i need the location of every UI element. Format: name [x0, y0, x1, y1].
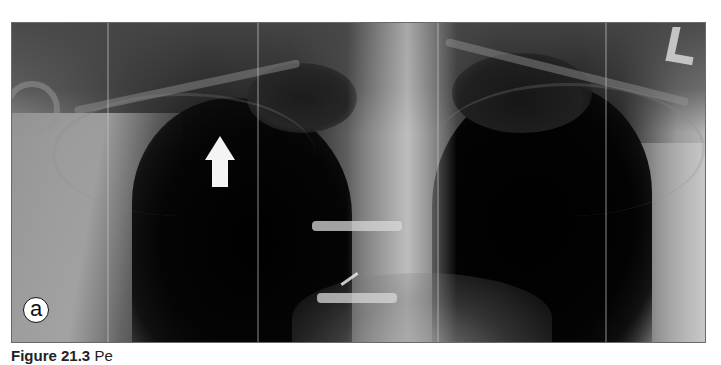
caption-text: Pe	[94, 347, 112, 364]
panel-label: a	[23, 297, 49, 323]
chest-xray-image	[12, 23, 705, 342]
figure-number: Figure 21.3	[11, 347, 90, 364]
surgical-clip	[317, 293, 397, 303]
rib-arc	[52, 93, 315, 216]
film-crease	[605, 23, 607, 342]
film-crease	[107, 23, 109, 342]
figure-panel: a	[11, 22, 706, 343]
arrow-up-icon	[205, 136, 235, 188]
figure-caption: Figure 21.3 Pe	[11, 347, 113, 365]
film-crease	[257, 23, 259, 342]
film-crease	[437, 23, 439, 342]
side-marker-l-icon	[665, 27, 695, 65]
surgical-clip	[312, 221, 402, 231]
rib-arc	[432, 83, 705, 216]
